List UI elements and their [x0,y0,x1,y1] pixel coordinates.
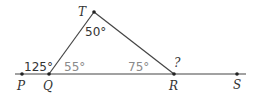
point-r [172,72,176,76]
label-q: Q [43,79,53,93]
angle-q-interior-label: 55° [64,60,85,74]
label-p: P [16,79,26,93]
label-s: S [233,78,241,92]
angle-q-exterior-label: 125° [24,60,53,74]
label-t: T [78,5,87,19]
label-r: R [168,79,178,93]
point-s [235,72,239,76]
angle-r-exterior-unknown: ? [174,56,181,70]
triangle-diagram: T P Q R S 50° 125° 55° 75° ? [0,0,258,98]
angle-r-interior-label: 75° [128,60,149,74]
angle-t-label: 50° [85,25,106,39]
point-t [92,10,96,14]
